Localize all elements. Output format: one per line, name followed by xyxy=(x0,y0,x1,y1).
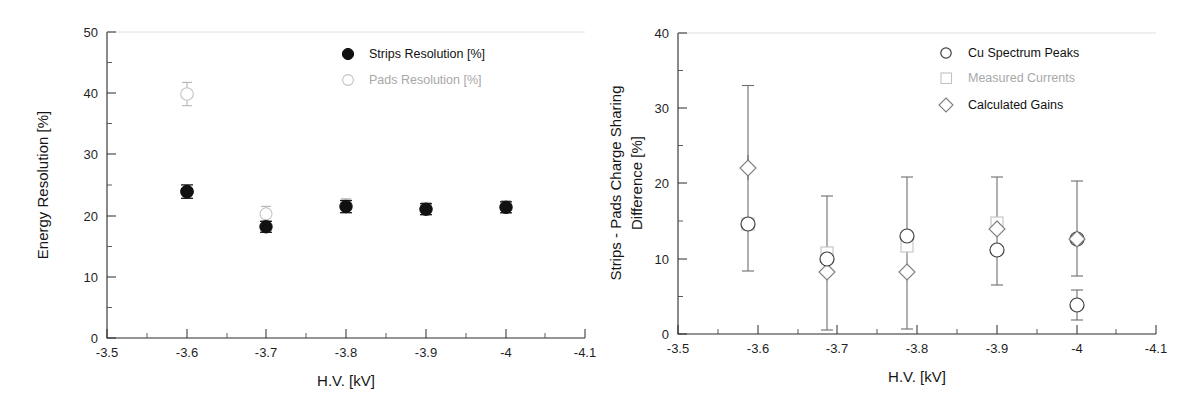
right-ytick-10: 10 xyxy=(655,252,669,267)
data-point-marker xyxy=(900,229,914,243)
data-point-marker xyxy=(820,252,834,266)
chart-panel-left: 50 40 30 20 10 0 xyxy=(0,0,601,402)
data-point-marker xyxy=(181,88,194,101)
legend-label-cu-peaks: Cu Spectrum Peaks xyxy=(968,46,1079,60)
right-xtick-1: -3.5 xyxy=(667,341,689,356)
left-series-strips xyxy=(181,185,513,233)
left-plot-svg: 50 40 30 20 10 0 xyxy=(0,0,601,402)
right-xtick-4: -3.8 xyxy=(906,341,928,356)
left-xtick-3: -3.7 xyxy=(255,345,277,360)
data-point-marker xyxy=(340,200,352,212)
right-group-3 xyxy=(899,177,915,329)
right-y-axis-title-line2: Difference [%] xyxy=(628,136,645,230)
data-point-marker xyxy=(1070,298,1084,312)
data-point-marker xyxy=(899,264,915,280)
data-point-marker xyxy=(500,201,512,213)
data-point-marker xyxy=(420,203,432,215)
right-x-major-ticks xyxy=(678,325,1156,334)
right-legend: Cu Spectrum Peaks Measured Currents Calc… xyxy=(939,46,1079,112)
right-y-major-ticks xyxy=(678,33,687,334)
left-xtick-2: -3.6 xyxy=(176,345,198,360)
right-xtick-5: -3.9 xyxy=(986,341,1008,356)
legend-marker-filled-circle-icon xyxy=(342,48,353,59)
right-xtick-3: -3.7 xyxy=(826,341,848,356)
legend-label-calculated-gains: Calculated Gains xyxy=(968,98,1063,112)
right-group-1 xyxy=(740,86,756,272)
left-ytick-30: 30 xyxy=(84,147,98,162)
data-point-marker xyxy=(260,208,272,220)
left-x-axis-title: H.V. [kV] xyxy=(317,372,375,389)
right-xtick-6: -4 xyxy=(1071,341,1083,356)
data-point-marker xyxy=(1069,231,1085,247)
left-xtick-7: -4.1 xyxy=(574,345,596,360)
right-ytick-20: 20 xyxy=(655,176,669,191)
right-xtick-7: -4.1 xyxy=(1145,341,1167,356)
left-xtick-4: -3.8 xyxy=(335,345,357,360)
data-point-marker xyxy=(990,243,1004,257)
chart-panel-right: 40 30 20 10 0 xyxy=(601,0,1202,402)
right-y-axis-title-line1: Strips - Pads Charge Sharing xyxy=(607,85,624,280)
right-ytick-40: 40 xyxy=(655,26,669,41)
figure-root: 50 40 30 20 10 0 xyxy=(0,0,1202,402)
right-xtick-2: -3.6 xyxy=(747,341,769,356)
legend-label-measured-currents: Measured Currents xyxy=(968,71,1075,85)
data-point-marker xyxy=(260,221,272,233)
right-ytick-0: 0 xyxy=(662,327,669,342)
legend-label-strips: Strips Resolution [%] xyxy=(369,47,485,61)
left-legend: Strips Resolution [%] Pads Resolution [%… xyxy=(342,47,485,87)
left-xtick-6: -4 xyxy=(500,345,512,360)
right-ytick-30: 30 xyxy=(655,101,669,116)
left-y-axis-title: Energy Resolution [%] xyxy=(34,111,51,259)
left-y-minor-ticks xyxy=(107,63,112,308)
legend-marker-open-square-icon xyxy=(941,73,952,84)
right-group-5 xyxy=(1069,181,1085,320)
right-x-axis-title: H.V. [kV] xyxy=(888,368,946,385)
left-ytick-10: 10 xyxy=(84,270,98,285)
left-ytick-20: 20 xyxy=(84,209,98,224)
right-plot-svg: 40 30 20 10 0 xyxy=(601,0,1202,402)
data-point-marker xyxy=(740,160,756,176)
right-group-4 xyxy=(989,177,1005,285)
left-xtick-5: -3.9 xyxy=(415,345,437,360)
left-ytick-40: 40 xyxy=(84,86,98,101)
left-ytick-0: 0 xyxy=(91,331,98,346)
right-group-2 xyxy=(819,196,835,330)
left-ytick-50: 50 xyxy=(84,25,98,40)
data-point-marker xyxy=(181,185,194,198)
left-xtick-1: -3.5 xyxy=(96,345,118,360)
legend-marker-open-diamond-icon xyxy=(939,98,953,112)
left-x-major-ticks xyxy=(107,329,585,338)
legend-label-pads: Pads Resolution [%] xyxy=(369,73,482,87)
data-point-marker xyxy=(741,217,755,231)
legend-marker-open-circle-icon xyxy=(343,75,354,86)
legend-marker-open-circle-icon xyxy=(941,48,951,58)
right-axis-frame xyxy=(678,33,1156,334)
